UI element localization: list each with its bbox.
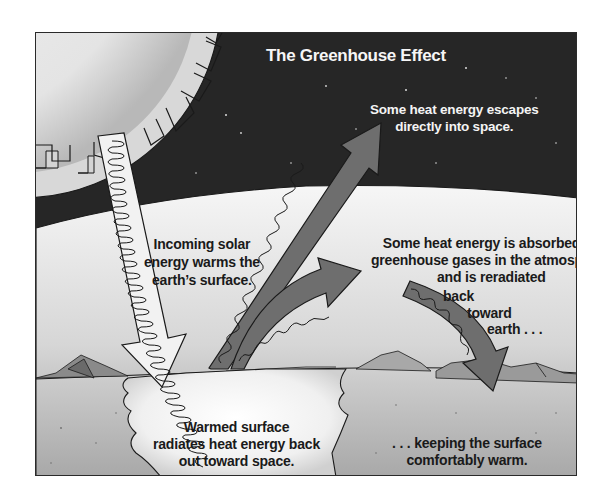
label-warmed-surface: Warmed surface radiates heat energy back…: [153, 419, 320, 470]
label-line: Some heat energy escapes: [370, 101, 539, 118]
label-line: and is reradiated: [371, 269, 577, 286]
label-back: back: [443, 288, 474, 305]
label-line: out toward space.: [153, 453, 320, 470]
label-incoming-solar: Incoming solar energy warms the earth’s …: [144, 235, 260, 289]
label-line: . . . keeping the surface: [392, 435, 542, 452]
label-line: Incoming solar: [144, 235, 260, 253]
label-line: directly into space.: [370, 118, 539, 135]
label-line: comfortably warm.: [392, 452, 542, 469]
greenhouse-diagram: The Greenhouse Effect Some heat energy e…: [35, 32, 577, 476]
label-line: Warmed surface: [153, 419, 320, 436]
label-toward: toward: [467, 305, 512, 322]
label-absorbed: Some heat energy is absorbed by greenhou…: [371, 235, 577, 286]
label-earth: earth . . .: [487, 321, 542, 338]
label-keeping-warm: . . . keeping the surface comfortably wa…: [392, 435, 542, 469]
label-line: Some heat energy is absorbed by: [371, 235, 577, 252]
label-line: greenhouse gases in the atmosphere: [371, 252, 577, 269]
label-line: energy warms the: [144, 253, 260, 271]
label-escapes-space: Some heat energy escapes directly into s…: [370, 101, 539, 135]
label-line: earth’s surface.: [144, 271, 260, 289]
label-line: radiates heat energy back: [153, 436, 320, 453]
diagram-title: The Greenhouse Effect: [266, 46, 446, 66]
